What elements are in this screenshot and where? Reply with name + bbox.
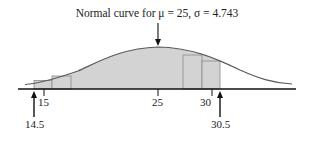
tick-label-30: 30 bbox=[200, 96, 211, 108]
histogram-bar-right-2 bbox=[202, 61, 220, 89]
arrow-30-5-head-icon bbox=[217, 91, 223, 98]
arrow-label-30-5: 30.5 bbox=[211, 118, 230, 130]
arrow-label-14-5: 14.5 bbox=[25, 118, 44, 130]
title-arrow-head-icon bbox=[155, 39, 161, 46]
histogram-bar-right-1 bbox=[183, 55, 202, 89]
arrow-14-5-head-icon bbox=[31, 91, 37, 98]
figure-canvas bbox=[0, 0, 314, 141]
tick-label-15: 15 bbox=[38, 96, 49, 108]
figure-title: Normal curve for μ = 25, σ = 4.743 bbox=[0, 7, 314, 19]
normal-approximation-figure: Normal curve for μ = 25, σ = 4.743 15 25… bbox=[0, 0, 314, 141]
tick-label-25: 25 bbox=[152, 96, 163, 108]
